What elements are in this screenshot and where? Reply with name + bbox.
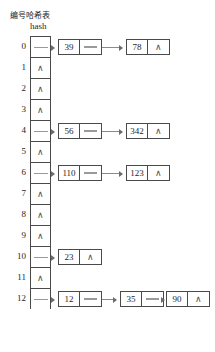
list-node[interactable]: 56 — [58, 123, 102, 139]
bucket-null-marker: ∧ — [31, 184, 50, 204]
node-next-pointer — [80, 166, 101, 180]
node-key: 56 — [59, 124, 80, 138]
next-pointer-dash — [146, 298, 159, 299]
node-key: 78 — [127, 40, 148, 54]
next-pointer-dash — [84, 46, 97, 47]
list-node[interactable]: 123∧ — [126, 165, 170, 181]
bucket-index-label: 7 — [6, 183, 26, 204]
bucket-cell[interactable]: ∧ — [31, 58, 50, 79]
bucket-index-label: 0 — [6, 36, 26, 57]
bucket-to-node-arrow — [51, 299, 54, 300]
bucket-cell[interactable]: ∧ — [31, 184, 50, 205]
list-node[interactable]: 23∧ — [58, 249, 102, 265]
node-to-node-arrow — [102, 173, 122, 174]
node-null-pointer: ∧ — [148, 124, 169, 138]
list-node[interactable]: 90∧ — [166, 291, 210, 307]
list-node[interactable]: 35 — [120, 291, 164, 307]
bucket-index-label: 2 — [6, 78, 26, 99]
node-key: 35 — [121, 292, 142, 306]
next-pointer-dash — [84, 172, 97, 173]
hash-table-header-en: hash — [30, 21, 47, 31]
bucket-index-label: 11 — [6, 267, 26, 288]
list-node[interactable]: 110 — [58, 165, 102, 181]
bucket-pointer-stub — [34, 299, 48, 300]
bucket-index-label: 3 — [6, 99, 26, 120]
bucket-to-node-arrow — [51, 173, 54, 174]
bucket-index-label: 12 — [6, 288, 26, 309]
bucket-pointer-stub — [34, 47, 48, 48]
node-key: 23 — [59, 250, 80, 264]
bucket-cell[interactable]: ∧ — [31, 205, 50, 226]
node-to-node-arrow — [102, 47, 122, 48]
hash-table-diagram: 编号 哈希表 hash ∧∧∧∧∧∧∧∧ 0123456789101112 39… — [0, 0, 215, 352]
node-null-pointer: ∧ — [188, 292, 209, 306]
node-key: 90 — [167, 292, 188, 306]
node-to-node-arrow — [102, 131, 122, 132]
bucket-null-marker: ∧ — [31, 79, 50, 99]
node-null-pointer: ∧ — [148, 40, 169, 54]
list-node[interactable]: 39 — [58, 39, 102, 55]
list-node[interactable]: 12 — [58, 291, 102, 307]
bucket-to-node-arrow — [51, 47, 54, 48]
bucket-index-label: 10 — [6, 246, 26, 267]
bucket-index-label: 8 — [6, 204, 26, 225]
next-pointer-dash — [84, 130, 97, 131]
list-node[interactable]: 78∧ — [126, 39, 170, 55]
node-null-pointer: ∧ — [80, 250, 101, 264]
bucket-index-label: 5 — [6, 141, 26, 162]
bucket-null-marker: ∧ — [31, 100, 50, 120]
bucket-pointer-stub — [34, 131, 48, 132]
bucket-to-node-arrow — [51, 131, 54, 132]
bucket-cell[interactable]: ∧ — [31, 268, 50, 289]
index-column-header: 编号 — [10, 11, 23, 21]
list-node[interactable]: 342∧ — [126, 123, 170, 139]
hash-table-header-cn: 哈希表 — [26, 11, 50, 21]
node-key: 110 — [59, 166, 80, 180]
bucket-index-label: 1 — [6, 57, 26, 78]
node-next-pointer — [80, 124, 101, 138]
bucket-pointer-stub — [34, 173, 48, 174]
node-null-pointer: ∧ — [148, 166, 169, 180]
bucket-cell[interactable]: ∧ — [31, 100, 50, 121]
node-next-pointer — [80, 292, 101, 306]
bucket-index-label: 9 — [6, 225, 26, 246]
bucket-null-marker: ∧ — [31, 142, 50, 162]
bucket-index-label: 6 — [6, 162, 26, 183]
bucket-to-node-arrow — [51, 257, 54, 258]
node-key: 39 — [59, 40, 80, 54]
bucket-cell[interactable]: ∧ — [31, 79, 50, 100]
bucket-cell[interactable]: ∧ — [31, 142, 50, 163]
bucket-pointer-stub — [34, 257, 48, 258]
bucket-null-marker: ∧ — [31, 205, 50, 225]
bucket-index-label: 4 — [6, 120, 26, 141]
node-next-pointer — [80, 40, 101, 54]
bucket-null-marker: ∧ — [31, 268, 50, 288]
bucket-cell[interactable]: ∧ — [31, 226, 50, 247]
next-pointer-dash — [84, 298, 97, 299]
bucket-null-marker: ∧ — [31, 226, 50, 246]
node-key: 12 — [59, 292, 80, 306]
bucket-null-marker: ∧ — [31, 58, 50, 78]
node-key: 342 — [127, 124, 148, 138]
node-to-node-arrow — [102, 299, 116, 300]
node-key: 123 — [127, 166, 148, 180]
node-next-pointer — [142, 292, 163, 306]
